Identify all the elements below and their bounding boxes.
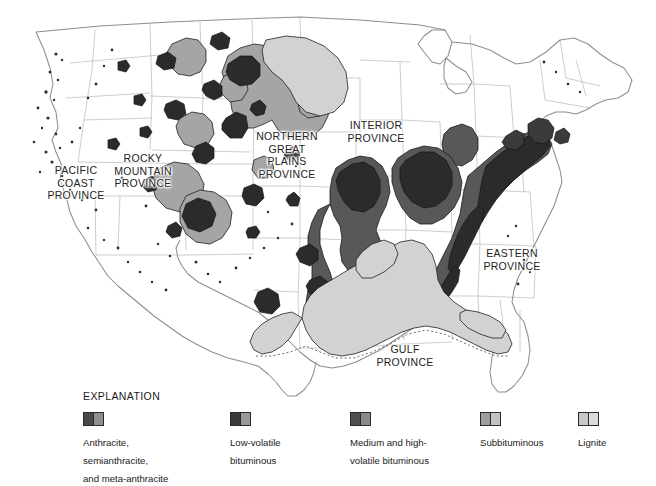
legend-swatch-anthracite — [83, 412, 104, 426]
legend-label-low-volatile-bituminous: Low-volatile bituminous — [230, 437, 281, 466]
legend-label-anthracite: Anthracite, semianthracite, and meta-ant… — [83, 437, 168, 484]
legend-swatch-left-half — [579, 413, 589, 425]
legend-label-lignite: Lignite — [578, 437, 606, 448]
legend-item-low-volatile-bituminous: Low-volatile bituminous — [230, 412, 350, 468]
coal-fields-map-figure: PACIFIC COAST PROVINCE ROCKY MOUNTAIN PR… — [0, 0, 656, 486]
legend-swatch-left-half — [231, 413, 241, 425]
legend-swatch-left-half — [351, 413, 361, 425]
legend-label-medium-high-volatile-bituminous: Medium and high- volatile bituminous — [350, 437, 429, 466]
legend-label-subbituminous: Subbituminous — [480, 437, 543, 448]
map-legend: EXPLANATION Anthracite, semianthracite, … — [80, 390, 640, 482]
legend-swatch-right-half — [94, 413, 104, 425]
legend-swatch-lignite — [578, 412, 599, 426]
legend-item-medium-high-volatile-bituminous: Medium and high- volatile bituminous — [350, 412, 472, 468]
legend-swatch-left-half — [84, 413, 94, 425]
legend-item-lignite: Lignite — [578, 412, 648, 450]
legend-swatch-low-volatile-bituminous — [230, 412, 251, 426]
legend-swatch-right-half — [589, 413, 599, 425]
legend-swatch-right-half — [241, 413, 251, 425]
legend-item-subbituminous: Subbituminous — [480, 412, 590, 450]
legend-swatch-subbituminous — [480, 412, 501, 426]
legend-swatch-right-half — [361, 413, 371, 425]
legend-swatch-medium-high-volatile-bituminous — [350, 412, 371, 426]
legend-swatch-left-half — [481, 413, 491, 425]
legend-item-anthracite: Anthracite, semianthracite, and meta-ant… — [83, 412, 211, 486]
legend-swatch-right-half — [491, 413, 501, 425]
legend-title: EXPLANATION — [83, 390, 160, 402]
